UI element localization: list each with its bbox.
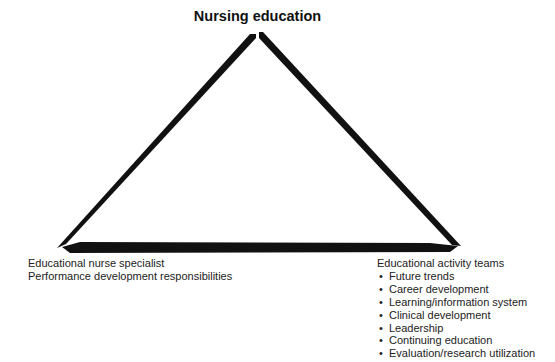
bullet-icon: • <box>379 283 383 296</box>
triangle-bottom-edge <box>62 242 458 253</box>
bullet-icon: • <box>379 322 383 335</box>
triangle-left-edge <box>57 34 256 248</box>
activity-team-list: •Future trends •Career development •Lear… <box>377 270 535 360</box>
left-label-line-1: Educational nurse specialist <box>28 257 232 270</box>
bullet-icon: • <box>379 334 383 347</box>
list-item: •Clinical development <box>377 309 535 322</box>
list-item: •Continuing education <box>377 334 535 347</box>
right-vertex-label: Educational activity teams •Future trend… <box>377 257 535 360</box>
list-item: •Career development <box>377 283 535 296</box>
bullet-icon: • <box>379 347 383 360</box>
bullet-icon: • <box>379 270 383 283</box>
list-item: •Evaluation/research utilization <box>377 347 535 360</box>
list-item: •Learning/information system <box>377 296 535 309</box>
right-label-heading: Educational activity teams <box>377 257 535 270</box>
list-item: •Leadership <box>377 322 535 335</box>
list-item: •Future trends <box>377 270 535 283</box>
bullet-icon: • <box>379 309 383 322</box>
left-label-line-2: Performance development responsibilities <box>28 270 232 283</box>
triangle-right-edge <box>259 32 461 246</box>
left-vertex-label: Educational nurse specialist Performance… <box>28 257 232 283</box>
bullet-icon: • <box>379 296 383 309</box>
diagram-title: Nursing education <box>0 8 515 24</box>
